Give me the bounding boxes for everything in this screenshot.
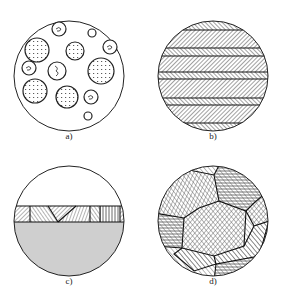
- panel-label-b: b): [193, 131, 233, 141]
- lamellar-diagram: [144, 0, 288, 146]
- thin-film-diagram: [0, 146, 144, 293]
- panel-c: c): [0, 146, 144, 292]
- panel-b: b): [144, 0, 288, 146]
- panel-label-a: a): [49, 131, 89, 141]
- panel-d: d): [144, 146, 288, 292]
- panel-a: a): [0, 0, 144, 146]
- inclusions-diagram: [0, 0, 144, 146]
- polycrystal-diagram: [144, 146, 288, 293]
- panel-label-d: d): [193, 276, 233, 286]
- panel-label-c: c): [49, 276, 89, 286]
